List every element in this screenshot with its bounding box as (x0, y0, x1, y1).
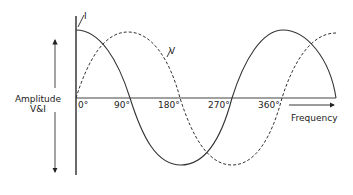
y-axis-label-sub: V&I (30, 104, 46, 114)
x-axis-label: Frequency (291, 113, 338, 123)
tick-0: 0° (78, 100, 88, 110)
y-axis-label: Amplitude (15, 94, 62, 104)
tick-90: 90° (114, 100, 130, 110)
voltage-label: V (169, 46, 176, 56)
tick-180: 180° (158, 100, 180, 110)
tick-360: 360° (258, 100, 280, 110)
current-label: I (84, 11, 87, 21)
tick-270: 270° (208, 100, 230, 110)
phase-diagram: I V Amplitude V&I 0° 90° 180° 270° 360° … (0, 0, 353, 195)
